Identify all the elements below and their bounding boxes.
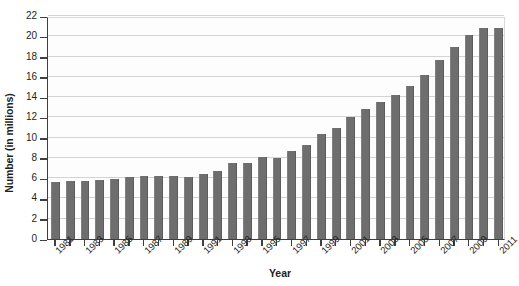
bar	[479, 28, 488, 239]
bar	[125, 177, 134, 239]
bar	[66, 181, 75, 239]
bar	[154, 176, 163, 239]
y-axis-tick-mark	[40, 118, 47, 120]
bar	[81, 181, 90, 239]
bar	[95, 180, 104, 239]
bar	[258, 157, 267, 239]
y-axis-tick-mark	[40, 17, 47, 19]
bar	[169, 176, 178, 239]
y-axis-tick-mark	[40, 77, 47, 79]
bar	[465, 35, 474, 239]
bar	[435, 60, 444, 239]
y-axis-tick-mark	[40, 37, 47, 39]
y-axis-tick-label: 8	[31, 152, 37, 163]
bar	[51, 182, 60, 239]
bar	[243, 163, 252, 239]
bar	[332, 128, 341, 240]
bar	[302, 145, 311, 239]
bar	[199, 174, 208, 239]
bar	[346, 117, 355, 239]
y-axis-tick-mark	[40, 158, 47, 160]
bar	[228, 163, 237, 239]
y-axis-tick-mark	[40, 138, 47, 140]
bar	[391, 95, 400, 239]
bar	[213, 171, 222, 239]
y-axis-tick-label: 0	[31, 233, 37, 244]
y-axis-tick-label: 6	[31, 172, 37, 183]
bar	[450, 47, 459, 239]
bar	[140, 176, 149, 239]
bar	[287, 151, 296, 239]
y-axis-tick-label: 16	[26, 71, 37, 82]
y-axis-tick-label: 4	[31, 192, 37, 203]
y-axis-tick-mark	[40, 98, 47, 100]
bar	[361, 109, 370, 239]
y-axis-title: Number (in millions)	[0, 0, 18, 286]
y-axis-tick-mark	[40, 199, 47, 201]
bar	[406, 86, 415, 239]
gridline	[48, 15, 504, 16]
plot-area	[47, 17, 505, 240]
bar	[494, 28, 503, 239]
bar	[184, 177, 193, 239]
y-axis-tick-label: 2	[31, 213, 37, 224]
y-axis-tick-label: 10	[26, 132, 37, 143]
y-axis-tick-mark	[40, 179, 47, 181]
bar	[420, 75, 429, 239]
bar	[376, 102, 385, 239]
x-axis-title: Year	[45, 267, 515, 279]
y-axis-tick-label: 18	[26, 51, 37, 62]
y-axis-tick-mark	[40, 240, 47, 242]
y-axis-tick-label: 14	[26, 91, 37, 102]
y-axis-tick-mark	[40, 57, 47, 59]
bar	[273, 158, 282, 239]
bar	[317, 134, 326, 239]
y-axis-tick-label: 12	[26, 111, 37, 122]
y-axis-tick-label: 22	[26, 10, 37, 21]
bar	[110, 179, 119, 239]
bar-series	[48, 18, 504, 239]
y-axis-tick-label: 20	[26, 30, 37, 41]
y-axis-tick-mark	[40, 219, 47, 221]
